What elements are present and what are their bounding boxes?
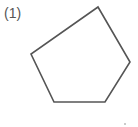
stray-mark	[124, 123, 126, 125]
pentagon-figure	[0, 0, 138, 127]
pentagon-shape	[31, 7, 130, 102]
